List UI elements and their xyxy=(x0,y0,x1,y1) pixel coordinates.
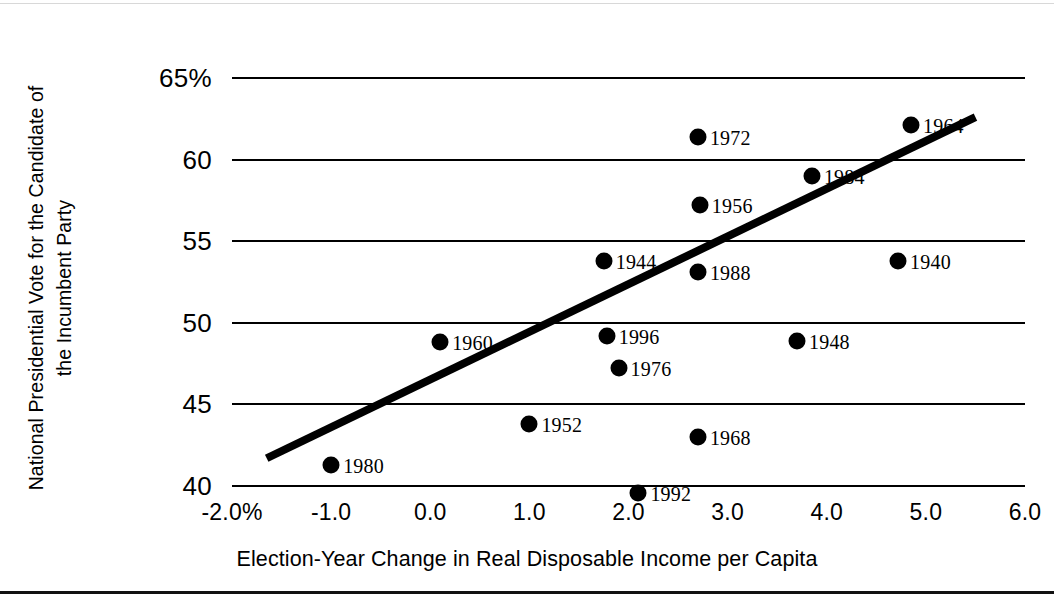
data-point-1988[interactable] xyxy=(689,264,706,281)
gridline-60 xyxy=(232,159,1025,161)
gridline-55 xyxy=(232,240,1025,242)
x-tick-label-20: -2.0% xyxy=(201,499,262,526)
gridline-50 xyxy=(232,322,1025,324)
data-point-label-1952: 1952 xyxy=(541,413,582,436)
data-point-1940[interactable] xyxy=(890,252,907,269)
x-tick-label-10: 1.0 xyxy=(513,499,546,526)
data-point-label-1992: 1992 xyxy=(650,482,691,505)
data-point-1992[interactable] xyxy=(630,484,647,501)
x-tick-label-40: 4.0 xyxy=(810,499,843,526)
data-point-1956[interactable] xyxy=(691,197,708,214)
data-point-label-1948: 1948 xyxy=(809,330,850,353)
data-point-1976[interactable] xyxy=(610,360,627,377)
gridline-40 xyxy=(232,485,1025,487)
x-tick-label-00: 0.0 xyxy=(414,499,447,526)
data-point-label-1972: 1972 xyxy=(710,126,751,149)
data-point-1944[interactable] xyxy=(595,252,612,269)
data-point-1948[interactable] xyxy=(789,332,806,349)
x-tick-label-20: 2.0 xyxy=(612,499,645,526)
x-tick-label-10: -1.0 xyxy=(311,499,351,526)
data-point-1980[interactable] xyxy=(323,456,340,473)
data-point-label-1964: 1964 xyxy=(923,115,964,138)
gridline-45 xyxy=(232,403,1025,405)
data-point-1984[interactable] xyxy=(803,167,820,184)
data-point-label-1956: 1956 xyxy=(712,195,753,218)
data-point-label-1960: 1960 xyxy=(452,332,493,355)
plot-area xyxy=(232,78,1025,486)
data-point-label-1996: 1996 xyxy=(619,325,660,348)
data-point-label-1980: 1980 xyxy=(343,454,384,477)
x-tick-label-30: 3.0 xyxy=(711,499,744,526)
data-point-1996[interactable] xyxy=(598,327,615,344)
data-point-label-1984: 1984 xyxy=(824,165,865,188)
data-point-label-1940: 1940 xyxy=(910,250,951,273)
data-point-label-1968: 1968 xyxy=(710,427,751,450)
data-point-1964[interactable] xyxy=(903,117,920,134)
data-point-1960[interactable] xyxy=(432,334,449,351)
data-point-label-1976: 1976 xyxy=(631,358,672,381)
chart-figure: National Presidential Vote for the Candi… xyxy=(0,0,1054,610)
x-axis-title: Election-Year Change in Real Disposable … xyxy=(0,547,1054,572)
data-point-label-1988: 1988 xyxy=(710,262,751,285)
data-point-1968[interactable] xyxy=(689,429,706,446)
x-tick-label-60: 6.0 xyxy=(1009,499,1042,526)
data-point-label-1944: 1944 xyxy=(616,250,657,273)
gridline-65 xyxy=(232,77,1025,79)
x-tick-label-50: 5.0 xyxy=(910,499,943,526)
data-point-1972[interactable] xyxy=(689,128,706,145)
data-point-1952[interactable] xyxy=(521,415,538,432)
